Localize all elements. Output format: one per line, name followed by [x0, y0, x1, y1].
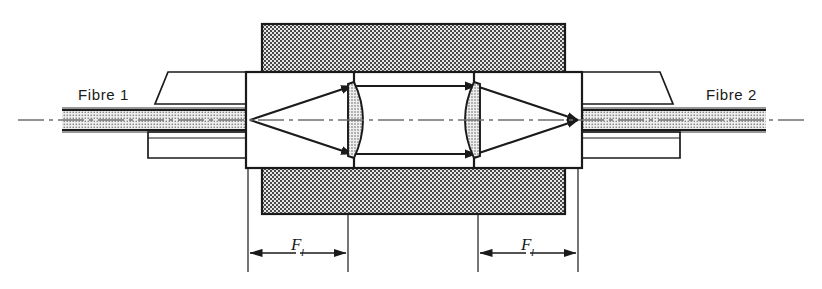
housing-block-bottom	[262, 168, 565, 214]
ferrule-sleeve-right	[580, 132, 680, 158]
collar-left	[155, 72, 248, 104]
dimension-left-subscript: l	[301, 246, 304, 258]
fibre-coupling-diagram: F l F l Fibre 1 Fibre 2	[0, 0, 822, 289]
diagram-canvas: F l F l Fibre 1 Fibre 2	[18, 24, 806, 272]
ferrule-sleeve-left	[148, 132, 248, 158]
dimension-right-subscript: l	[531, 246, 534, 258]
housing-block-top	[262, 24, 565, 72]
collar-right	[580, 72, 673, 104]
fibre-assembly-right	[578, 72, 766, 158]
fibre-assembly-left	[62, 72, 250, 158]
fibre-right-label: Fibre 2	[706, 86, 757, 103]
fibre-left-label: Fibre 1	[78, 86, 129, 103]
